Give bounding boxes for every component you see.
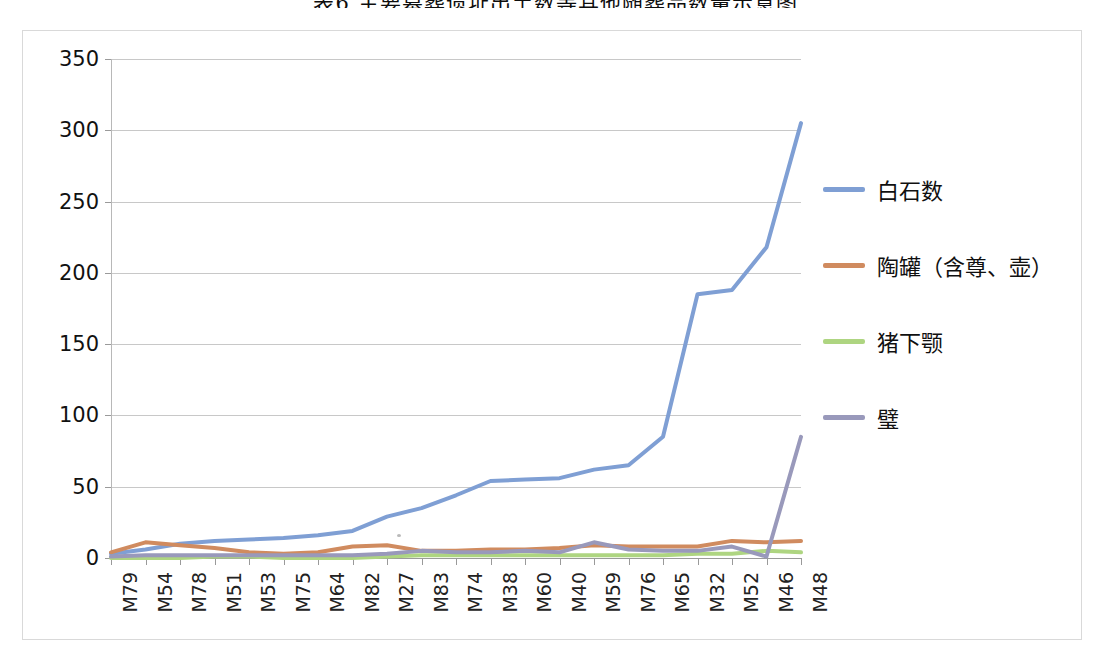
legend-label: 璧 xyxy=(877,401,899,433)
x-axis-tick-label: M75 xyxy=(292,572,314,613)
x-axis-tick xyxy=(422,558,423,565)
x-axis-tick-label: M78 xyxy=(188,572,210,613)
x-axis-tick-label: M83 xyxy=(430,572,452,613)
x-axis-tick-label: M38 xyxy=(499,572,521,613)
legend-label: 陶罐（含尊、壶） xyxy=(877,249,1053,281)
x-axis-tick-label: M32 xyxy=(706,572,728,613)
x-axis-tick xyxy=(663,558,664,565)
x-axis-tick-label: M52 xyxy=(740,572,762,613)
y-axis-tick-label: 200 xyxy=(59,261,99,285)
x-axis-tick xyxy=(629,558,630,565)
y-axis-tick-label: 150 xyxy=(59,332,99,356)
x-axis-tick-label: M82 xyxy=(361,572,383,613)
x-axis-tick xyxy=(767,558,768,565)
x-axis-tick-label: M54 xyxy=(154,572,176,613)
legend-swatch-icon xyxy=(823,187,865,192)
x-axis-tick-label: M79 xyxy=(119,572,141,613)
x-axis-tick-label: M74 xyxy=(464,572,486,613)
x-axis-tick xyxy=(525,558,526,565)
legend-item[interactable]: 璧 xyxy=(823,379,1073,455)
x-axis-tick-label: M53 xyxy=(257,572,279,613)
legend-swatch-icon xyxy=(823,415,865,420)
x-axis-tick-label: M60 xyxy=(533,572,555,613)
x-axis-tick-label: M76 xyxy=(637,572,659,613)
y-axis-tick-label: 350 xyxy=(59,47,99,71)
legend-label: 猪下颚 xyxy=(877,325,943,357)
x-axis-tick xyxy=(215,558,216,565)
chart-frame: 050100150200250300350 M79M54M78M51M53M75… xyxy=(22,30,1082,640)
x-axis-tick xyxy=(249,558,250,565)
legend-item[interactable]: 猪下颚 xyxy=(823,303,1073,379)
legend-swatch-icon xyxy=(823,339,865,344)
x-axis-tick xyxy=(387,558,388,565)
x-axis-tick-label: M51 xyxy=(223,572,245,613)
x-axis-tick xyxy=(491,558,492,565)
chart-legend: 白石数陶罐（含尊、壶）猪下颚璧 xyxy=(823,151,1073,455)
x-axis-tick-label: M27 xyxy=(395,572,417,613)
x-axis-tick-label: M48 xyxy=(809,572,831,613)
x-axis-tick-label: M64 xyxy=(326,572,348,613)
legend-swatch-icon xyxy=(823,263,865,268)
y-axis-tick-label: 100 xyxy=(59,403,99,427)
y-axis-tick-label: 300 xyxy=(59,118,99,142)
figure-title: 表6 主要墓葬遗址出土数等其他随葬品数量示意图 xyxy=(0,0,1111,8)
scan-speck-a xyxy=(397,534,401,537)
x-axis-tick-label: M65 xyxy=(671,572,693,613)
series-lines xyxy=(111,59,801,558)
x-axis-tick-label: M40 xyxy=(568,572,590,613)
x-axis-tick xyxy=(698,558,699,565)
legend-item[interactable]: 陶罐（含尊、壶） xyxy=(823,227,1073,303)
legend-label: 白石数 xyxy=(877,173,943,205)
legend-item[interactable]: 白石数 xyxy=(823,151,1073,227)
x-axis-tick-label: M59 xyxy=(602,572,624,613)
y-axis-tick-label: 250 xyxy=(59,190,99,214)
y-axis-tick-label: 50 xyxy=(72,475,99,499)
x-axis-tick xyxy=(732,558,733,565)
x-axis-tick xyxy=(456,558,457,565)
x-axis-tick xyxy=(594,558,595,565)
y-axis-tick-label: 0 xyxy=(86,546,99,570)
x-axis-tick-label: M46 xyxy=(775,572,797,613)
x-axis-tick xyxy=(560,558,561,565)
series-line xyxy=(111,123,801,554)
plot-area: 050100150200250300350 M79M54M78M51M53M75… xyxy=(111,59,801,558)
x-axis-tick xyxy=(801,558,802,565)
